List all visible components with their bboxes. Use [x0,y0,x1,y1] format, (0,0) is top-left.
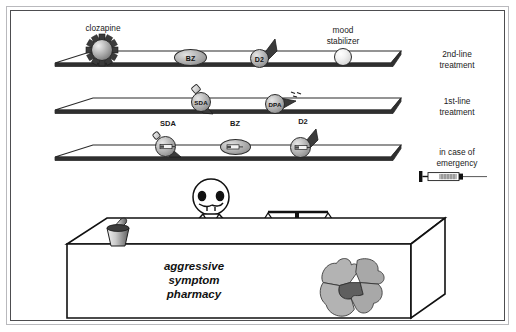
sphere-icon: SDA [191,92,211,112]
syringe-icon [417,169,489,185]
figure-frame: clozapine [10,10,505,321]
side-label-first-line: 1st-line treatment [409,96,505,118]
item-d2-second-line[interactable]: D2 [246,37,282,67]
counter-title-line2: symptom [168,274,219,286]
mortar-and-pestle-icon [99,215,139,249]
item-label-mood-stabilizer: mood stabilizer [321,25,365,46]
jigsaw-puzzle-icon [303,253,413,327]
item-inner-label: D2 [251,55,268,62]
side-label-second-line: 2nd-line treatment [409,49,505,71]
item-inner-label: BZ [175,54,206,61]
spiky-sphere-icon [81,32,125,65]
counter-title-line1: aggressive [164,260,224,272]
item-mood-stabilizer[interactable]: mood stabilizer [321,28,365,66]
side-label-line1: 1st-line [444,96,471,106]
side-label-line2: treatment [439,107,474,117]
mood-stabilizer-label-line1: mood [333,25,354,35]
syringe-inside-icon [288,117,328,161]
sphere-icon: DPA [265,94,285,114]
figure-canvas: clozapine [0,0,516,332]
side-label-line2: emergency [436,158,477,168]
item-d2-emergency[interactable]: D2 [288,117,328,161]
item-clozapine[interactable]: clozapine [81,32,125,65]
light-sphere-icon [334,48,352,66]
item-sda-emergency[interactable]: SDA [151,119,191,161]
side-label-line2: treatment [439,60,474,70]
syringe-inside-icon [218,119,256,161]
oval-icon: BZ [174,49,207,66]
item-bz-second-line[interactable]: BZ [174,49,207,66]
counter-title: aggressive symptom pharmacy [129,259,259,301]
item-inner-label: DPA [266,101,284,108]
side-label-line1: in case of [439,147,475,157]
item-inner-label: SDA [192,99,210,106]
syringe-inside-icon [151,119,191,161]
sphere-icon: D2 [250,49,269,68]
item-sda-first-line[interactable]: SDA [187,84,223,118]
item-dpa-first-line[interactable]: DPA [264,90,306,116]
side-label-emergency: in case of emergency [409,147,505,169]
item-bz-emergency[interactable]: BZ [218,119,256,161]
mood-stabilizer-label-line2: stabilizer [327,36,360,46]
counter-title-line3: pharmacy [167,288,221,300]
side-label-line1: 2nd-line [442,49,472,59]
